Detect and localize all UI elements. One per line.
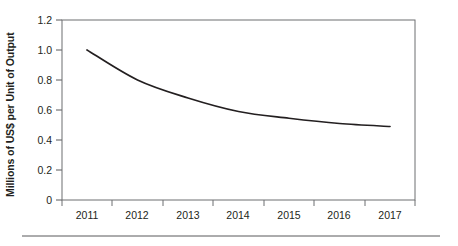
line-chart: Millions of US$ per Unit of Output 0 0.2… — [0, 0, 458, 246]
y-tick-label-1-0: 1.0 — [37, 44, 52, 56]
x-tick-label-2016: 2016 — [327, 209, 351, 221]
x-tick-label-2012: 2012 — [125, 209, 149, 221]
x-tick-label-2015: 2015 — [277, 209, 301, 221]
x-tick-marks — [62, 200, 415, 206]
x-tick-label-2014: 2014 — [226, 209, 250, 221]
y-tick-marks — [56, 20, 62, 200]
y-tick-label-0-4: 0.4 — [37, 134, 52, 146]
x-tick-label-2017: 2017 — [378, 209, 402, 221]
plot-frame — [62, 20, 415, 200]
y-axis-title: Millions of US$ per Unit of Output — [4, 32, 16, 197]
y-tick-label-0-2: 0.2 — [37, 164, 52, 176]
y-tick-label-0-6: 0.6 — [37, 104, 52, 116]
y-tick-label-1-2: 1.2 — [37, 14, 52, 26]
chart-figure: Millions of US$ per Unit of Output 0 0.2… — [0, 0, 458, 246]
y-tick-label-0-8: 0.8 — [37, 74, 52, 86]
y-tick-label-0: 0 — [46, 194, 52, 206]
x-tick-label-2011: 2011 — [76, 209, 99, 221]
x-tick-label-2013: 2013 — [176, 209, 200, 221]
data-line-series — [87, 50, 390, 127]
